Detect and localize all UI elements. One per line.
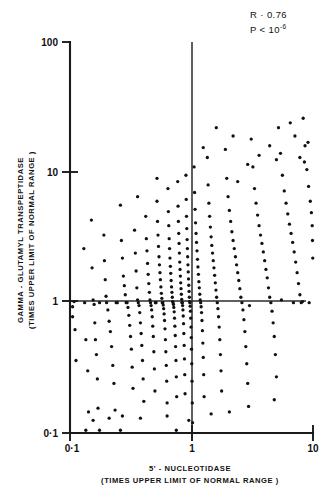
data-point xyxy=(175,375,178,378)
data-point xyxy=(195,241,198,244)
data-point xyxy=(159,278,162,281)
data-point xyxy=(73,328,76,331)
data-point xyxy=(84,429,87,432)
data-point xyxy=(145,249,148,252)
data-point xyxy=(289,232,292,235)
data-point xyxy=(247,405,250,408)
data-point xyxy=(148,298,151,301)
data-point xyxy=(213,274,216,277)
data-point xyxy=(275,158,278,161)
data-point xyxy=(253,187,256,190)
data-point xyxy=(71,305,74,308)
data-point xyxy=(274,353,277,356)
data-point xyxy=(277,126,280,129)
data-point xyxy=(135,286,138,289)
data-point xyxy=(150,308,153,311)
data-point xyxy=(113,408,116,411)
data-point xyxy=(209,235,212,238)
data-point xyxy=(199,301,202,304)
data-point xyxy=(257,154,260,157)
data-point xyxy=(186,255,189,258)
data-point xyxy=(199,305,202,308)
data-point xyxy=(178,251,181,254)
x-axis-title-sub: (TIMES UPPER LIMIT OF NORMAL RANGE ) xyxy=(101,476,279,485)
data-point xyxy=(288,223,291,226)
data-point xyxy=(199,298,202,301)
data-point xyxy=(311,224,314,227)
data-point xyxy=(136,298,139,301)
data-point xyxy=(174,334,177,337)
data-point xyxy=(124,293,127,296)
data-point xyxy=(169,272,172,275)
data-point xyxy=(303,160,306,163)
scatter-plot-figure: R · 0.76 P < 10-6 100 10 1 xyxy=(0,0,329,491)
data-point xyxy=(176,180,179,183)
data-point xyxy=(234,255,237,258)
data-point xyxy=(185,238,188,241)
data-point xyxy=(110,345,113,348)
data-point xyxy=(305,168,308,171)
data-point xyxy=(198,293,201,296)
data-point xyxy=(83,301,86,304)
data-point xyxy=(182,332,185,335)
data-point xyxy=(86,369,89,372)
data-point xyxy=(169,265,172,268)
data-point xyxy=(157,255,160,258)
data-point xyxy=(178,260,181,263)
data-point xyxy=(187,419,190,422)
data-point xyxy=(268,296,271,299)
data-point xyxy=(142,377,145,380)
data-point xyxy=(128,324,131,327)
data-point xyxy=(121,256,124,259)
data-point xyxy=(156,220,159,223)
data-point xyxy=(185,227,188,230)
data-point xyxy=(175,429,178,432)
x-ticklabel-1: 1 xyxy=(189,443,195,454)
data-point xyxy=(179,287,182,290)
data-point xyxy=(151,315,154,318)
data-point xyxy=(84,338,87,341)
data-point xyxy=(236,180,239,183)
data-point xyxy=(248,304,251,307)
data-point xyxy=(103,259,106,262)
data-point xyxy=(224,148,227,151)
data-point xyxy=(225,177,228,180)
data-point xyxy=(183,392,186,395)
data-point xyxy=(165,414,168,417)
data-point xyxy=(141,359,144,362)
data-point xyxy=(214,281,217,284)
data-point xyxy=(176,205,179,208)
data-point xyxy=(182,314,185,317)
data-point xyxy=(246,382,249,385)
data-point xyxy=(197,280,200,283)
data-point xyxy=(180,298,183,301)
data-point xyxy=(183,344,186,347)
data-point xyxy=(207,202,210,205)
data-point xyxy=(280,298,283,301)
data-point xyxy=(218,325,221,328)
data-point xyxy=(139,332,142,335)
data-point xyxy=(216,301,219,304)
data-point xyxy=(267,286,270,289)
data-point xyxy=(142,400,145,403)
data-point xyxy=(220,389,223,392)
data-point xyxy=(217,315,220,318)
data-point xyxy=(268,144,271,147)
data-point xyxy=(194,221,197,224)
data-point xyxy=(188,296,191,299)
data-point xyxy=(286,212,289,215)
data-point xyxy=(181,301,184,304)
data-point xyxy=(216,307,219,310)
data-point xyxy=(164,350,167,353)
data-point xyxy=(236,271,239,274)
data-point xyxy=(191,401,194,404)
data-point xyxy=(184,174,187,177)
data-point xyxy=(170,279,173,282)
data-point xyxy=(154,301,157,304)
data-point xyxy=(233,247,236,250)
data-point xyxy=(295,271,298,274)
data-point xyxy=(140,344,143,347)
data-point xyxy=(126,306,129,309)
data-point xyxy=(168,237,171,240)
data-point xyxy=(160,292,163,295)
